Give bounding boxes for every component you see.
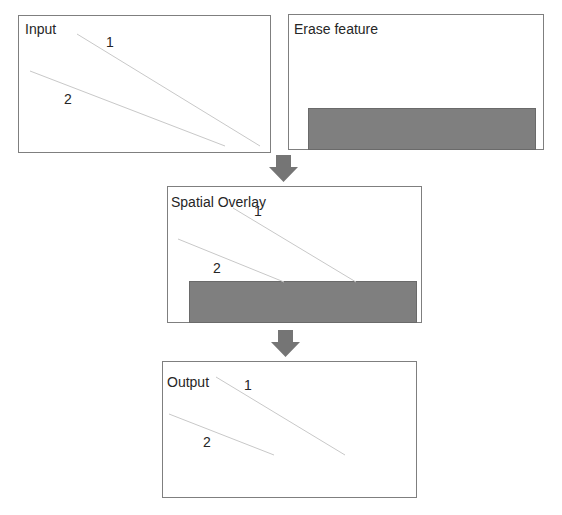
line-features [0,0,562,515]
arrow-down-icon [269,155,298,182]
arrow-down-icon [271,330,300,357]
